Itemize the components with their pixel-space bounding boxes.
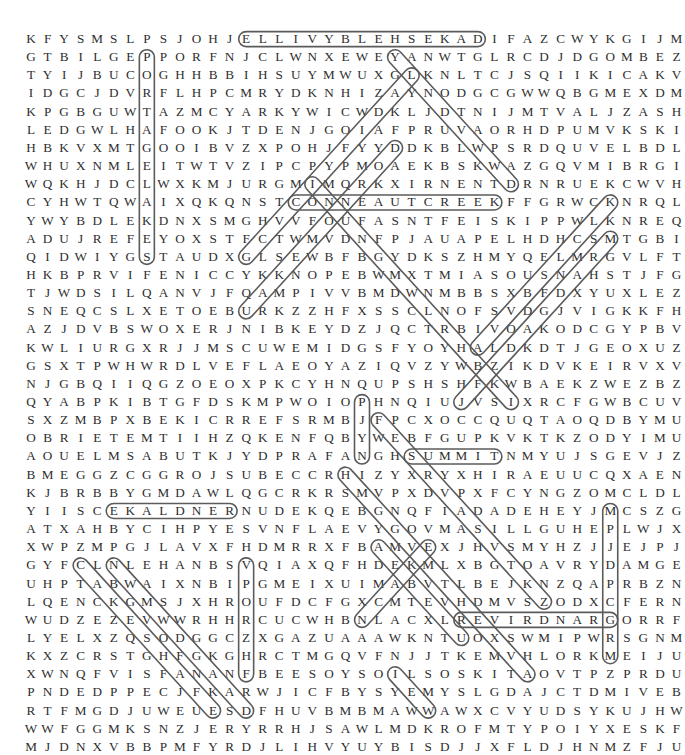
grid-letter: I <box>668 121 685 139</box>
grid-letter: O <box>138 66 155 84</box>
grid-letter: L <box>370 611 387 629</box>
grid-letter: B <box>453 320 470 338</box>
grid-letter: I <box>552 629 569 647</box>
grid-letter: E <box>105 502 122 520</box>
grid-letter: W <box>23 720 40 738</box>
grid-letter: E <box>585 175 602 193</box>
grid-letter: T <box>552 339 569 357</box>
grid-letter: P <box>552 212 569 230</box>
grid-letter: M <box>39 466 56 484</box>
grid-letter: B <box>105 320 122 338</box>
grid-letter: S <box>486 393 503 411</box>
grid-letter: E <box>122 611 139 629</box>
grid-letter: Q <box>320 502 337 520</box>
grid-letter: S <box>420 738 437 755</box>
grid-letter: K <box>122 502 139 520</box>
grid-letter: Z <box>668 339 685 357</box>
grid-letter: A <box>171 538 188 556</box>
grid-letter: S <box>651 103 668 121</box>
grid-letter: J <box>585 538 602 556</box>
grid-letter: V <box>403 538 420 556</box>
grid-letter: K <box>403 629 420 647</box>
grid-letter: C <box>205 266 222 284</box>
grid-letter: D <box>171 484 188 502</box>
grid-letter: E <box>585 357 602 375</box>
grid-letter: G <box>387 520 404 538</box>
grid-letter: N <box>287 121 304 139</box>
grid-letter: A <box>138 121 155 139</box>
grid-letter: D <box>287 593 304 611</box>
grid-letter: H <box>469 248 486 266</box>
grid-letter: R <box>221 720 238 738</box>
grid-letter: G <box>370 447 387 465</box>
grid-letter: F <box>420 502 437 520</box>
grid-letter: N <box>387 393 404 411</box>
grid-letter: U <box>271 611 288 629</box>
grid-letter: A <box>569 103 586 121</box>
grid-letter: Z <box>569 538 586 556</box>
grid-letter: R <box>254 302 271 320</box>
grid-letter: N <box>552 266 569 284</box>
grid-letter: L <box>635 284 652 302</box>
grid-letter: Z <box>635 375 652 393</box>
grid-letter: I <box>486 665 503 683</box>
grid-letter: S <box>72 30 89 48</box>
grid-letter: Y <box>585 702 602 720</box>
grid-letter: N <box>387 502 404 520</box>
grid-letter: R <box>221 411 238 429</box>
grid-letter: D <box>254 121 271 139</box>
grid-letter: J <box>370 320 387 338</box>
grid-letter: W <box>403 284 420 302</box>
grid-letter: S <box>271 66 288 84</box>
grid-row: GSXTPWHWRDLVEFLAEOYAZIQVZYWBZIKDVKEIRVXV <box>0 357 681 375</box>
grid-letter: M <box>602 738 619 755</box>
grid-letter: W <box>23 175 40 193</box>
grid-letter: C <box>337 103 354 121</box>
grid-letter: D <box>56 683 73 701</box>
grid-letter: X <box>23 665 40 683</box>
grid-letter: L <box>221 484 238 502</box>
grid-letter: P <box>602 520 619 538</box>
grid-letter: E <box>469 647 486 665</box>
grid-letter: L <box>519 738 536 755</box>
grid-letter: A <box>23 320 40 338</box>
grid-letter: Q <box>23 393 40 411</box>
grid-letter: S <box>585 447 602 465</box>
grid-letter: W <box>155 611 172 629</box>
grid-letter: Y <box>387 466 404 484</box>
grid-letter: E <box>287 665 304 683</box>
grid-letter: B <box>56 48 73 66</box>
grid-letter: C <box>238 339 255 357</box>
grid-letter: V <box>486 320 503 338</box>
grid-letter: W <box>254 683 271 701</box>
grid-letter: D <box>238 738 255 755</box>
grid-letter: L <box>304 520 321 538</box>
grid-letter: C <box>89 593 106 611</box>
grid-letter: X <box>39 647 56 665</box>
grid-letter: B <box>519 375 536 393</box>
grid-letter: L <box>370 720 387 738</box>
grid-letter: P <box>469 230 486 248</box>
grid-letter: O <box>453 720 470 738</box>
grid-letter: K <box>651 720 668 738</box>
grid-letter: C <box>221 84 238 102</box>
grid-letter: L <box>271 30 288 48</box>
grid-letter: D <box>536 738 553 755</box>
grid-letter: F <box>420 429 437 447</box>
grid-letter: C <box>585 466 602 484</box>
grid-letter: K <box>536 320 553 338</box>
grid-letter: Q <box>122 629 139 647</box>
grid-letter: U <box>569 121 586 139</box>
grid-letter: U <box>668 738 685 755</box>
grid-letter: E <box>618 84 635 102</box>
grid-letter: W <box>387 629 404 647</box>
grid-letter: E <box>155 411 172 429</box>
grid-letter: Z <box>370 466 387 484</box>
grid-row: LQENCKGMSJXHROUFDCFGXCMTEVHDMVSZODXCFERN <box>0 593 681 611</box>
grid-letter: I <box>420 393 437 411</box>
grid-letter: W <box>72 248 89 266</box>
grid-letter: V <box>635 357 652 375</box>
grid-row: XWPZMPGJLAVXFHDMRRXFBAMVEXJHVSMYHZJJEJPJ <box>0 538 681 556</box>
grid-letter: E <box>651 284 668 302</box>
grid-letter: Z <box>105 611 122 629</box>
